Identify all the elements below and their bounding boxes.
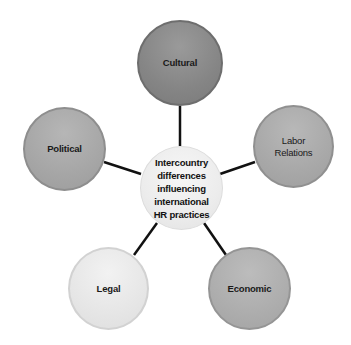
center-label-line3: influencing [154,182,210,195]
node-economic: Economic [208,247,291,330]
connector-economic [204,223,226,255]
node-cultural: Cultural [137,20,223,106]
node-labor-label-line1: Labor [275,135,313,147]
node-political: Political [23,107,106,191]
node-economic-label: Economic [228,283,272,295]
center-node: Intercountry differences influencing int… [140,146,223,230]
node-labor-relations: Labor Relations [253,105,334,188]
center-label-line1: Intercountry [154,156,210,169]
node-legal-label: Legal [97,283,121,295]
hub-spoke-diagram: Cultural Labor Relations Economic Legal … [0,0,351,345]
center-label-line2: differences [154,169,210,182]
node-legal: Legal [68,247,149,330]
center-label-line4: international [154,195,210,208]
node-cultural-label: Cultural [163,57,197,69]
connector-legal [134,223,157,255]
center-label-line5: HR practices [154,208,210,221]
node-political-label: Political [47,143,82,155]
connector-labor [220,162,255,174]
node-labor-label-line2: Relations [275,147,313,159]
connector-political [104,162,141,174]
